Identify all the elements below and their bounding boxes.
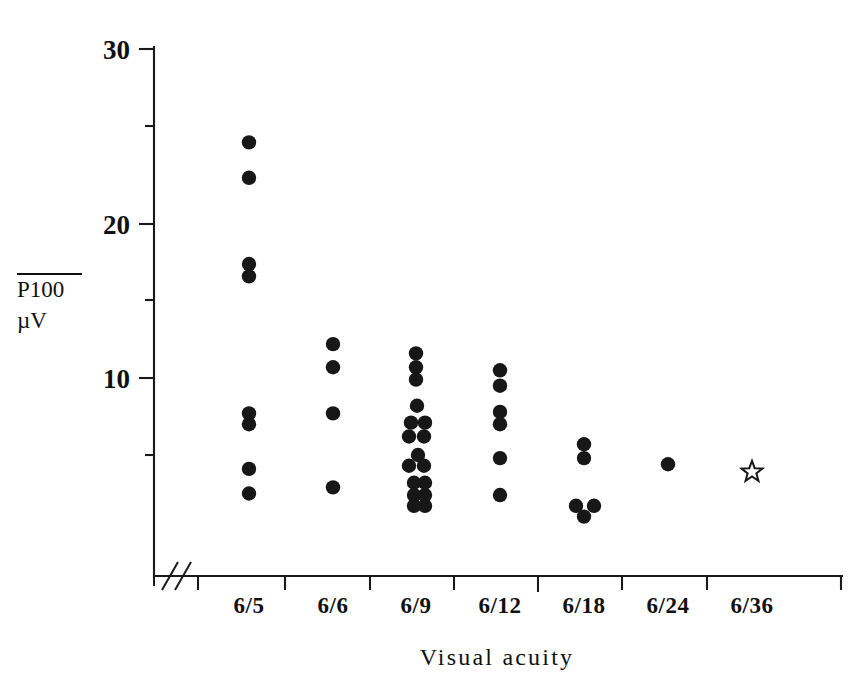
- data-point-dot: [493, 405, 507, 419]
- y-axis: 30 20 10: [103, 35, 154, 576]
- x-tick-label-6-18: 6/18: [563, 593, 606, 618]
- data-point-dot: [493, 363, 507, 377]
- y-axis-title-line2: µV: [17, 308, 47, 333]
- data-point-dot: [661, 457, 675, 471]
- data-point-dot: [587, 499, 601, 513]
- y-tick-label-20: 20: [103, 210, 130, 240]
- data-point-dot: [242, 486, 256, 500]
- data-point-star: [742, 461, 763, 481]
- data-point-dot: [493, 451, 507, 465]
- x-tick-label-6-24: 6/24: [647, 593, 690, 618]
- data-point-dot: [493, 379, 507, 393]
- data-point-dot: [418, 415, 432, 429]
- data-point-dot: [417, 429, 431, 443]
- data-point-dot: [242, 135, 256, 149]
- x-tick-label-6-36: 6/36: [731, 593, 774, 618]
- data-point-dot: [418, 476, 432, 490]
- x-tick-label-6-12: 6/12: [479, 593, 522, 618]
- data-point-dot: [409, 372, 423, 386]
- x-axis: 6/5 6/6 6/9 6/12 6/18 6/24 6/36: [154, 562, 842, 618]
- data-point-dot: [493, 417, 507, 431]
- data-point-dot: [326, 406, 340, 420]
- data-point-dot: [577, 509, 591, 523]
- x-tick-label-6-9: 6/9: [401, 593, 432, 618]
- data-point-dot: [242, 257, 256, 271]
- data-point-dot: [409, 346, 423, 360]
- data-point-dot: [577, 451, 591, 465]
- data-point-dot: [410, 399, 424, 413]
- data-point-dot: [242, 417, 256, 431]
- scatter-plot-figure: 30 20 10 P100 µV 6/5 6/6: [0, 0, 858, 697]
- y-axis-title-line1: P100: [17, 277, 64, 302]
- data-point-dot: [326, 480, 340, 494]
- data-point-dot: [402, 459, 416, 473]
- data-point-dot: [242, 171, 256, 185]
- data-point-dot: [242, 462, 256, 476]
- data-point-dot: [418, 488, 432, 502]
- data-point-dot: [402, 429, 416, 443]
- data-point-dot: [404, 415, 418, 429]
- data-point-dot: [409, 360, 423, 374]
- y-tick-label-30: 30: [103, 35, 130, 65]
- data-point-dot: [326, 360, 340, 374]
- x-tick-label-6-6: 6/6: [318, 593, 349, 618]
- data-point-dot: [242, 269, 256, 283]
- data-point-dot: [417, 459, 431, 473]
- x-axis-title: Visual acuity: [420, 644, 574, 670]
- y-axis-title: P100 µV: [17, 274, 82, 333]
- data-point-dot: [493, 488, 507, 502]
- data-point-dot: [326, 337, 340, 351]
- x-tick-label-6-5: 6/5: [234, 593, 265, 618]
- data-points-layer: [242, 135, 763, 524]
- y-tick-label-10: 10: [103, 364, 130, 394]
- data-point-dot: [577, 437, 591, 451]
- plot-canvas: 30 20 10 P100 µV 6/5 6/6: [0, 0, 858, 697]
